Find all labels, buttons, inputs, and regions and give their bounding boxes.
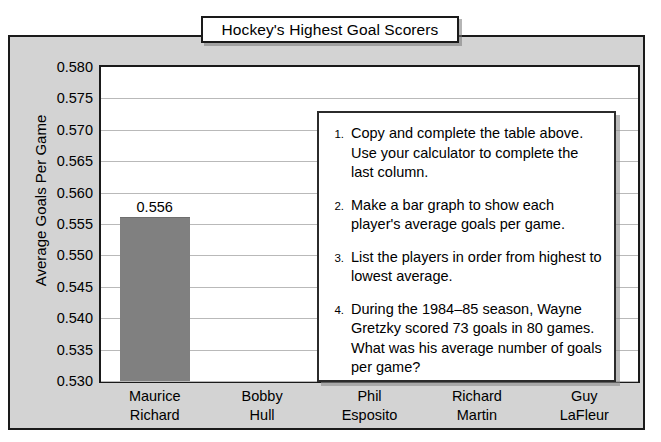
x-axis-label-line: Esposito [316,406,423,425]
y-axis-tick-label: 0.580 [57,59,93,75]
bar-slot: 0.556 [101,67,208,381]
x-axis-label: MauriceRichard [101,387,208,425]
page-title: Hockey's Highest Goal Scorers [222,21,439,39]
y-axis-tick-label: 0.535 [57,342,93,358]
instruction-number: 4. [327,300,351,316]
instructions-callout: 1.Copy and complete the table above. Use… [317,111,616,382]
instruction-number: 1. [327,124,351,140]
y-axis-tick-label: 0.560 [57,185,93,201]
instruction-item: 3.List the players in order from highest… [327,248,602,287]
bar-slot [208,67,315,381]
chart-figure-panel: Average Goals Per Game 0.5800.5750.5700.… [8,35,645,430]
instruction-item: 2.Make a bar graph to show each player's… [327,196,602,235]
x-axis-label-line: LaFleur [531,406,638,425]
x-axis-label: BobbyHull [208,387,315,425]
x-axis-label-line: Guy [531,387,638,406]
y-axis-tick-label: 0.540 [57,310,93,326]
x-axis-label: PhilEsposito [316,387,423,425]
y-axis-tick-label: 0.545 [57,279,93,295]
y-axis-tick-label: 0.555 [57,216,93,232]
instruction-number: 3. [327,248,351,264]
x-axis-label-line: Phil [316,387,423,406]
y-axis-tick-label: 0.530 [57,373,93,389]
y-axis-title: Average Goals Per Game [32,86,49,316]
y-axis-tick-label: 0.575 [57,90,93,106]
x-axis-label-line: Maurice [101,387,208,406]
x-axis-label-line: Richard [423,387,530,406]
x-axis-label-line: Bobby [208,387,315,406]
x-axis-label-line: Hull [208,406,315,425]
instruction-text: Make a bar graph to show each player's a… [351,196,602,235]
y-axis-tick-label: 0.565 [57,153,93,169]
x-axis-label: RichardMartin [423,387,530,425]
y-axis-tick-label: 0.550 [57,247,93,263]
instruction-text: List the players in order from highest t… [351,248,602,287]
instruction-text: Copy and complete the table above. Use y… [351,124,602,183]
x-axis-label: GuyLaFleur [531,387,638,425]
instruction-item: 4.During the 1984–85 season, Wayne Gretz… [327,300,602,378]
y-axis-tick-label: 0.570 [57,122,93,138]
instruction-item: 1.Copy and complete the table above. Use… [327,124,602,183]
instruction-text: During the 1984–85 season, Wayne Gretzky… [351,300,602,378]
instruction-number: 2. [327,196,351,212]
chart-title-box: Hockey's Highest Goal Scorers [201,16,459,43]
bar[interactable] [120,217,190,381]
x-axis-label-line: Richard [101,406,208,425]
x-axis-label-line: Martin [423,406,530,425]
bar-value-label: 0.556 [137,199,173,215]
x-axis-labels-group: MauriceRichardBobbyHullPhilEspositoRicha… [99,387,640,431]
